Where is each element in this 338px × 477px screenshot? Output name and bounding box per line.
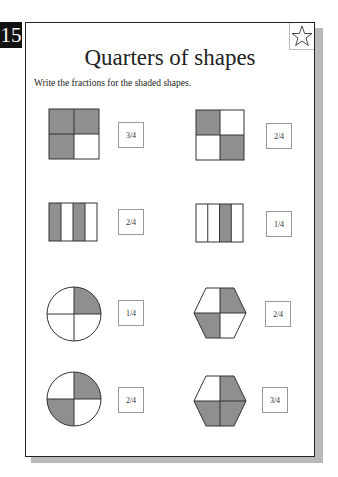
answer-box[interactable]: 3/4 xyxy=(118,122,144,148)
page-number-badge: 15 xyxy=(0,22,22,48)
answer-box[interactable]: 1/4 xyxy=(118,300,144,326)
hexagon-shape xyxy=(192,375,248,427)
vertical-strips-shape xyxy=(49,203,97,241)
circle-shape xyxy=(46,286,102,342)
page-title: Quarters of shapes xyxy=(26,45,314,71)
square-grid-shape xyxy=(49,109,99,159)
answer-box[interactable]: 2/4 xyxy=(118,387,144,413)
circle-shape xyxy=(46,371,102,427)
answer-box[interactable]: 2/4 xyxy=(118,209,144,235)
answer-box[interactable]: 2/4 xyxy=(265,301,291,327)
instruction-text: Write the fractions for the shaded shape… xyxy=(34,78,191,88)
square-grid-shape xyxy=(196,110,244,160)
worksheet-page: Quarters of shapes Write the fractions f… xyxy=(25,22,315,457)
hexagon-shape xyxy=(192,287,248,339)
answer-box[interactable]: 2/4 xyxy=(266,123,292,149)
vertical-strips-shape xyxy=(196,204,243,242)
answer-box[interactable]: 1/4 xyxy=(266,211,292,237)
answer-box[interactable]: 3/4 xyxy=(262,387,288,413)
